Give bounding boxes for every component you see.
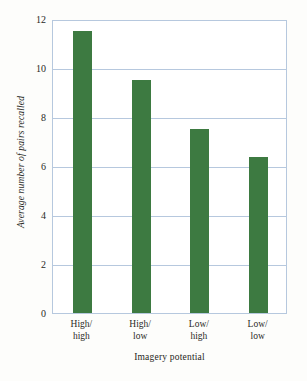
x-axis-tick-label: Low/low xyxy=(223,319,293,342)
y-axis-tick-labels: 121086420 xyxy=(28,20,46,314)
y-axis-tick-label: 6 xyxy=(28,162,46,172)
bar-chart-figure: Average number of pairs recalled 1210864… xyxy=(0,0,307,381)
x-axis-tick-labels: High/highHigh/lowLow/highLow/low xyxy=(52,319,287,351)
y-axis-tick-label: 10 xyxy=(28,64,46,74)
plot-area xyxy=(52,20,287,314)
x-axis-tick-label-line2: low xyxy=(223,331,293,343)
y-axis-tick-label: 0 xyxy=(28,309,46,319)
y-axis-tick-label: 12 xyxy=(28,15,46,25)
bar xyxy=(190,129,209,313)
x-axis-tick-label-line1: Low/ xyxy=(248,319,268,329)
bar xyxy=(249,157,268,313)
x-axis-tick-label-line1: High/ xyxy=(71,319,93,329)
x-axis-title: Imagery potential xyxy=(52,352,287,362)
y-axis-tick-label: 2 xyxy=(28,260,46,270)
bar xyxy=(132,80,151,313)
y-axis-tick-label: 4 xyxy=(28,211,46,221)
x-axis-tick-label-line1: Low/ xyxy=(189,319,209,329)
y-axis-title: Average number of pairs recalled xyxy=(13,52,29,272)
y-axis-tick-label: 8 xyxy=(28,113,46,123)
x-axis-tick-label-line1: High/ xyxy=(129,319,151,329)
bar xyxy=(73,31,92,313)
